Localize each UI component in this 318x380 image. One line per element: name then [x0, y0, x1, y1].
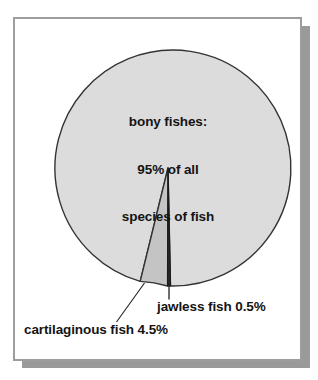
- pie-label-bony-fishes: bony fishes: 95% of all species of fish: [58, 82, 278, 257]
- pie-chart-figure: bony fishes: 95% of all species of fish …: [0, 0, 318, 380]
- pie-label-cartilaginous-fish: cartilaginous fish 4.5%: [24, 322, 168, 338]
- pie-label-bony-fishes-line2: 95% of all: [58, 162, 278, 178]
- pie-label-bony-fishes-line3: species of fish: [58, 209, 278, 225]
- pie-label-jawless-fish: jawless fish 0.5%: [157, 299, 266, 315]
- leader-line-cartilaginous-fish: [117, 283, 145, 322]
- pie-label-bony-fishes-line1: bony fishes:: [58, 114, 278, 130]
